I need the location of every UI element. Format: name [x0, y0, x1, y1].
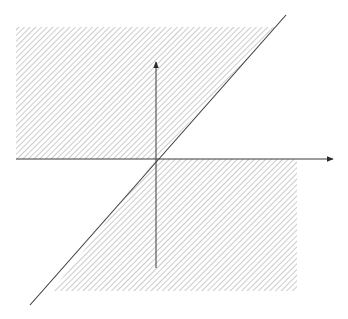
- diagram-canvas: [0, 0, 348, 319]
- lower-right-hatched-region: [52, 159, 297, 291]
- upper-left-hatched-region: [16, 27, 276, 159]
